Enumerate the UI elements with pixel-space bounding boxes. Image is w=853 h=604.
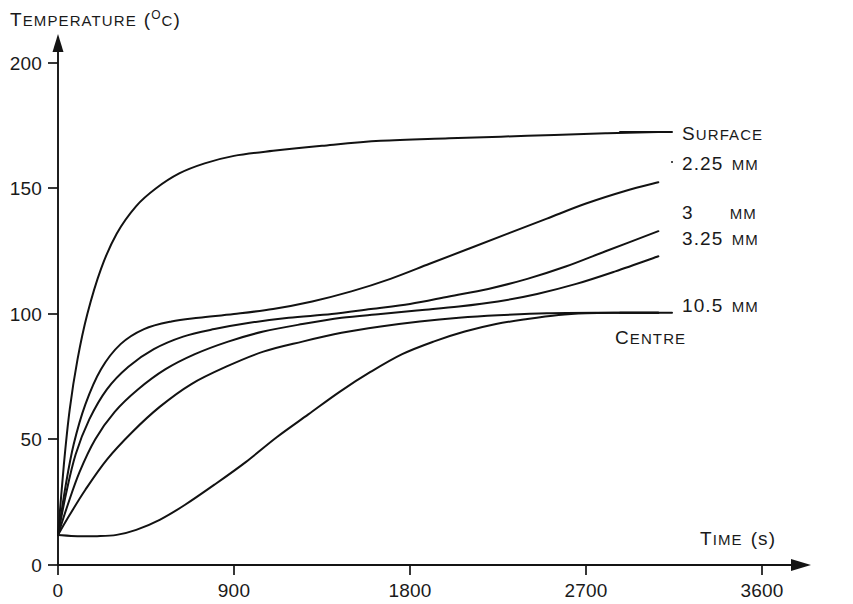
series-label-2-25mm-unit: MM	[732, 156, 759, 173]
y-axis-unit-open: (	[144, 9, 151, 30]
x-axis-ticks: 0 900 1800 2700 3600	[53, 565, 784, 601]
series-label-3-25mm-unit: MM	[732, 231, 759, 248]
chart-svg: 0 50 100 150 200 0 900 1800 2700 3600 TE…	[0, 0, 853, 604]
series-label-surface-rest: URFACE	[696, 126, 763, 143]
series-label-3mm-value: 3	[682, 202, 694, 223]
x-axis-title-unit: (s)	[751, 528, 776, 549]
label-leaders	[620, 132, 672, 313]
x-tick-label-0: 0	[53, 580, 64, 601]
y-tick-label-50: 50	[20, 429, 42, 450]
y-axis-title: TEMPERATURE(OC)	[10, 8, 181, 30]
x-axis-title: TIME(s)	[700, 528, 776, 549]
series-label-10-5mm-unit: MM	[732, 298, 759, 315]
series-label-3-25mm: 3.25 MM	[682, 228, 759, 249]
series-label-3-25mm-value: 3.25	[682, 228, 730, 249]
series-labels: SURFACE 2.25 MM 3MM 3.25 MM 10.5 MM CENT…	[615, 123, 763, 348]
data-curves	[58, 132, 658, 536]
y-axis-arrow-icon	[53, 34, 64, 52]
y-tick-label-200: 200	[10, 53, 42, 74]
y-axis-ticks: 0 50 100 150 200	[10, 53, 58, 576]
x-axis-title-head: T	[700, 528, 713, 549]
y-axis-unit-close: )	[174, 9, 181, 30]
curve-3mm	[58, 231, 658, 535]
series-label-2-25mm-value: 2.25	[682, 153, 730, 174]
curve-2-25mm	[58, 182, 658, 535]
series-label-centre-head: C	[615, 327, 630, 348]
y-tick-label-100: 100	[10, 304, 42, 325]
y-axis-unit-celsius: C	[162, 12, 174, 29]
y-tick-label-150: 150	[10, 178, 42, 199]
x-tick-label-1800: 1800	[388, 580, 431, 601]
series-label-centre: CENTRE	[615, 327, 686, 348]
x-tick-label-900: 900	[218, 580, 250, 601]
temperature-vs-time-chart: 0 50 100 150 200 0 900 1800 2700 3600 TE…	[0, 0, 853, 604]
series-label-10-5mm: 10.5 MM	[682, 295, 759, 316]
series-label-surface: SURFACE	[682, 123, 763, 144]
x-axis-arrow-icon	[791, 559, 811, 571]
series-label-2-25mm: 2.25 MM	[682, 153, 759, 174]
curve-10-5mm	[58, 313, 658, 535]
y-axis-unit-degree: O	[151, 8, 161, 22]
x-tick-label-3600: 3600	[740, 580, 783, 601]
series-label-3mm: 3MM	[682, 202, 757, 223]
x-tick-label-2700: 2700	[564, 580, 607, 601]
curve-surface	[58, 132, 658, 535]
series-label-centre-rest: ENTRE	[630, 330, 686, 347]
series-label-3mm-unit: MM	[730, 205, 757, 222]
series-label-10-5mm-value: 10.5	[682, 295, 730, 316]
curve-centre	[58, 313, 658, 537]
x-axis-title-rest: IME	[713, 531, 743, 548]
y-axis-title-rest: EMPERATURE	[23, 12, 137, 29]
y-axis-title-head: T	[10, 9, 23, 30]
y-tick-label-0: 0	[31, 555, 42, 576]
series-label-surface-head: S	[682, 123, 696, 144]
curve-3-25mm	[58, 256, 658, 535]
